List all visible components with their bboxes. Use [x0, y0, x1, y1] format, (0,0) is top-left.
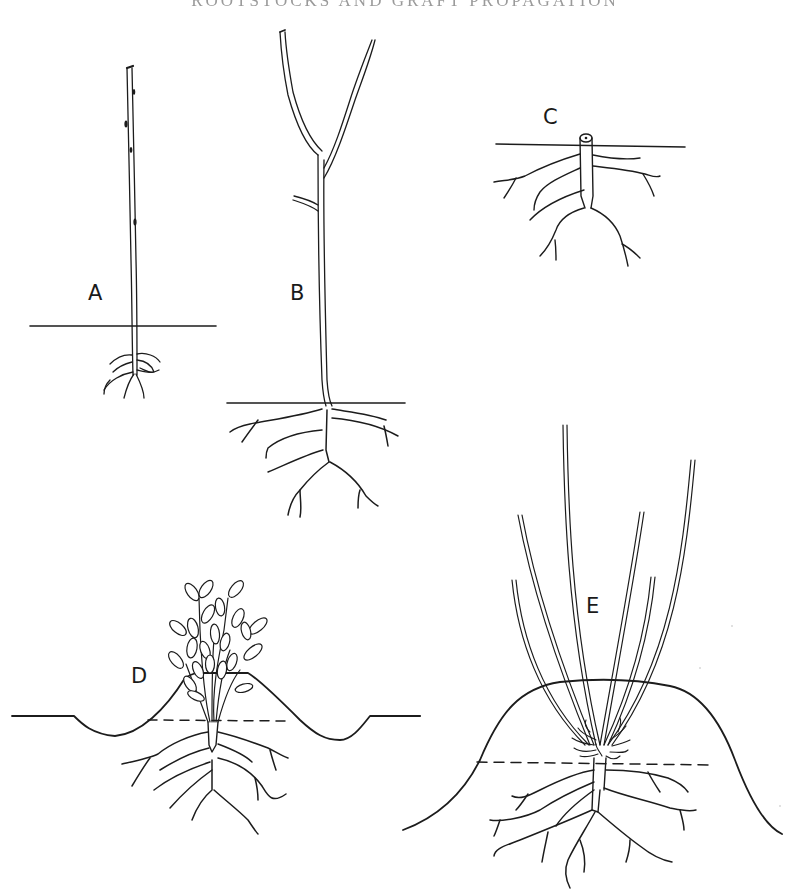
panel-a-label: A	[88, 283, 102, 304]
panel-b-label: B	[290, 283, 304, 304]
panel-e-drawing	[403, 425, 782, 888]
panel-e-label: E	[586, 596, 599, 617]
illustration-canvas	[0, 0, 799, 892]
panel-d-soil-mound	[12, 673, 420, 740]
panel-a-drawing	[30, 66, 216, 398]
panel-d-drawing	[12, 578, 420, 834]
panel-c-drawing	[494, 134, 685, 266]
panel-c-label: C	[543, 107, 558, 128]
panel-e-shoots	[512, 425, 695, 745]
panel-d-label: D	[131, 666, 147, 687]
panel-b-drawing	[227, 30, 405, 517]
panel-c-soil-line	[496, 144, 685, 147]
